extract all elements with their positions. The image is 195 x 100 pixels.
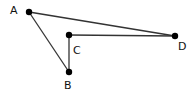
label-b: B [64, 79, 72, 92]
label-a: A [10, 4, 18, 17]
point-c [66, 32, 72, 38]
segment-c-d [69, 35, 175, 36]
segment-a-b [29, 12, 69, 72]
geometry-diagram: A C D B [0, 0, 195, 100]
label-d: D [178, 40, 186, 53]
point-a [26, 9, 32, 15]
label-c: C [73, 44, 81, 57]
point-d [172, 33, 178, 39]
point-b [66, 69, 72, 75]
segment-a-d [29, 12, 175, 36]
